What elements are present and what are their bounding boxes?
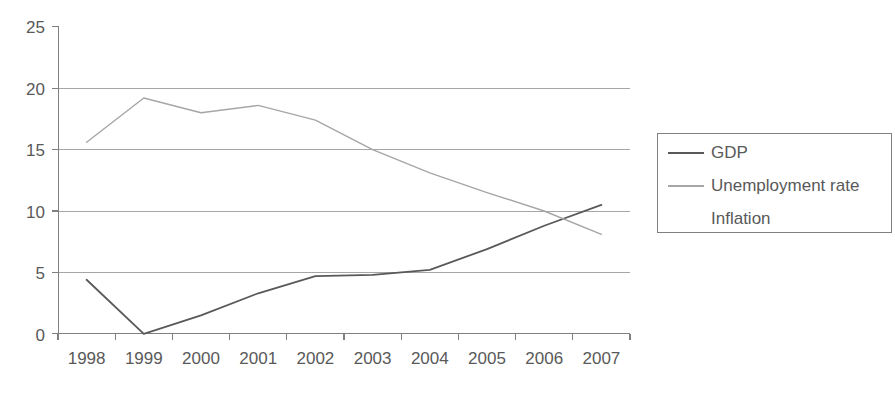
x-axis-label-2003: 2003 bbox=[354, 349, 392, 368]
y-axis-label-15: 15 bbox=[26, 141, 45, 160]
chart-container: 25 20 15 10 5 0 199819992000200120022003… bbox=[0, 0, 895, 401]
x-axis-label-2000: 2000 bbox=[182, 349, 220, 368]
x-axis-label-2004: 2004 bbox=[411, 349, 449, 368]
gridlines bbox=[58, 88, 630, 272]
x-axis: 1998199920002001200220032004200520062007 bbox=[58, 334, 630, 368]
legend-label-inflation[interactable]: Inflation bbox=[711, 209, 771, 228]
x-axis-label-2001: 2001 bbox=[239, 349, 277, 368]
x-axis-label-1998: 1998 bbox=[68, 349, 106, 368]
y-axis-label-25: 25 bbox=[26, 18, 45, 37]
x-axis-label-2007: 2007 bbox=[582, 349, 620, 368]
series-line-gdp bbox=[87, 205, 602, 334]
legend-label-unemployment-rate[interactable]: Unemployment rate bbox=[711, 176, 859, 195]
y-axis: 25 20 15 10 5 0 bbox=[26, 18, 58, 345]
x-axis-label-1999: 1999 bbox=[125, 349, 163, 368]
x-axis-label-2005: 2005 bbox=[468, 349, 506, 368]
y-axis-label-10: 10 bbox=[26, 203, 45, 222]
x-tick-marks bbox=[58, 334, 630, 341]
legend: GDPUnemployment rateInflation bbox=[658, 134, 892, 233]
line-chart: 25 20 15 10 5 0 199819992000200120022003… bbox=[0, 0, 895, 401]
y-axis-label-5: 5 bbox=[36, 264, 45, 283]
series-layer bbox=[87, 98, 602, 334]
y-axis-label-20: 20 bbox=[26, 80, 45, 99]
x-axis-label-2006: 2006 bbox=[525, 349, 563, 368]
series-line-unemployment-rate bbox=[87, 98, 602, 234]
x-tick-labels: 1998199920002001200220032004200520062007 bbox=[68, 349, 621, 368]
x-axis-label-2002: 2002 bbox=[296, 349, 334, 368]
legend-label-gdp[interactable]: GDP bbox=[711, 143, 748, 162]
y-axis-label-0: 0 bbox=[36, 326, 45, 345]
